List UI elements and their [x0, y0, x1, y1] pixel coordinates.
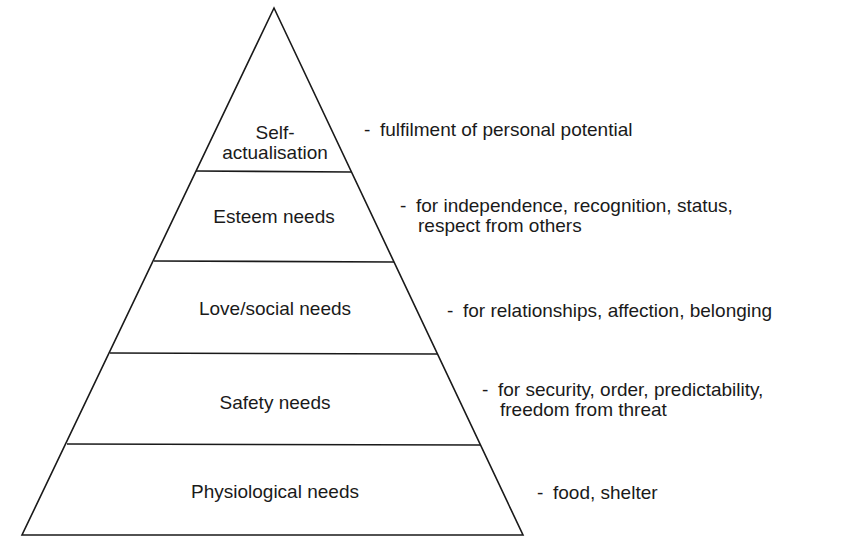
- description-text: fulfilment of personal potential: [380, 119, 632, 140]
- description-text: for independence, recognition, status,: [416, 195, 733, 216]
- description-safety: -for security, order, predictability, fr…: [482, 380, 763, 420]
- description-text: for security, order, predictability,: [498, 379, 763, 400]
- level-self-actualisation: Self- actualisation: [200, 123, 350, 163]
- description-esteem: -for independence, recognition, status, …: [400, 196, 733, 236]
- description-text-line2: respect from others: [400, 216, 733, 236]
- pyramid-outline: [22, 8, 523, 535]
- level-physiological: Physiological needs: [40, 482, 510, 502]
- level-label-line2: actualisation: [200, 143, 350, 163]
- description-text: for relationships, affection, belonging: [463, 300, 772, 321]
- dash: -: [447, 301, 463, 321]
- pyramid-shape: [0, 0, 848, 552]
- divider-1: [196, 171, 351, 172]
- dash: -: [400, 196, 416, 216]
- divider-3: [110, 353, 437, 354]
- dash: -: [537, 483, 553, 503]
- divider-2: [154, 261, 394, 262]
- description-text: food, shelter: [553, 482, 658, 503]
- level-esteem: Esteem needs: [160, 207, 388, 227]
- dash: -: [364, 120, 380, 140]
- description-self-actualisation: -fulfilment of personal potential: [364, 120, 632, 140]
- level-safety: Safety needs: [80, 393, 470, 413]
- description-love-social: -for relationships, affection, belonging: [447, 301, 772, 321]
- dash: -: [482, 380, 498, 400]
- level-love-social: Love/social needs: [120, 299, 430, 319]
- divider-4: [67, 444, 480, 445]
- description-text-line2: freedom from threat: [482, 400, 763, 420]
- level-label-line1: Self-: [200, 123, 350, 143]
- description-physiological: -food, shelter: [537, 483, 658, 503]
